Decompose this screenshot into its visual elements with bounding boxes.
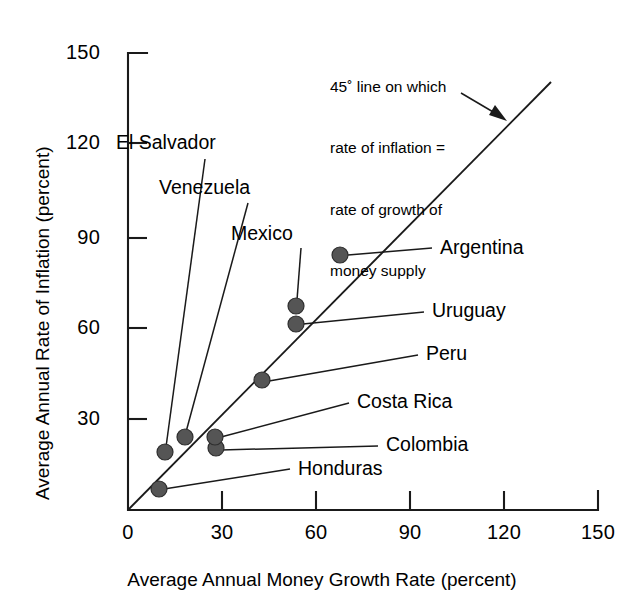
data-point-uruguay [288, 316, 304, 332]
x-axis-title: Average Annual Money Growth Rate (percen… [127, 570, 516, 589]
y-tick-label-120: 120 [66, 132, 100, 152]
point-label-peru: Peru [426, 344, 467, 364]
x-axis-ticks [222, 491, 504, 510]
x-tick-label-30: 30 [211, 522, 234, 542]
y-axis-ticks [128, 143, 147, 419]
point-label-honduras: Honduras [298, 459, 383, 479]
point-label-venezuela: Venezuela [159, 178, 250, 198]
scatter-plot-canvas [0, 0, 644, 606]
reference-line-annotation: 45˚ line on which rate of inflation = ra… [330, 36, 446, 322]
x-tick-label-60: 60 [305, 522, 328, 542]
data-point-mexico [288, 298, 304, 314]
x-tick-label-150: 150 [581, 522, 615, 542]
y-tick-label-60: 60 [77, 317, 100, 337]
x-tick-label-120: 120 [487, 522, 521, 542]
annotation-line-1: 45˚ line on which [330, 77, 446, 97]
point-label-colombia: Colombia [386, 435, 468, 455]
data-point-honduras [151, 481, 167, 497]
annotation-line-2: rate of inflation = [330, 138, 446, 158]
annotation-line-4: money supply [330, 261, 446, 281]
y-tick-label-150: 150 [66, 42, 100, 62]
chart-container: 150 120 90 60 30 0 30 60 90 120 150 El S… [0, 0, 644, 606]
point-label-mexico: Mexico [231, 224, 293, 244]
point-label-costa-rica: Costa Rica [357, 392, 452, 412]
x-tick-label-90: 90 [399, 522, 422, 542]
data-point-costa-rica [207, 429, 223, 445]
point-label-el-salvador: El Salvador [116, 133, 216, 153]
point-label-argentina: Argentina [440, 238, 523, 258]
y-tick-label-90: 90 [77, 227, 100, 247]
data-point-el-salvador [157, 444, 173, 460]
y-tick-label-30: 30 [77, 408, 100, 428]
data-point-peru [254, 372, 270, 388]
annotation-arrow-icon [461, 93, 507, 121]
annotation-line-3: rate of growth of [330, 200, 446, 220]
x-tick-label-0: 0 [122, 522, 133, 542]
y-axis-title: Average Annual Rate of Inflation (percen… [32, 147, 54, 501]
data-point-venezuela [177, 429, 193, 445]
